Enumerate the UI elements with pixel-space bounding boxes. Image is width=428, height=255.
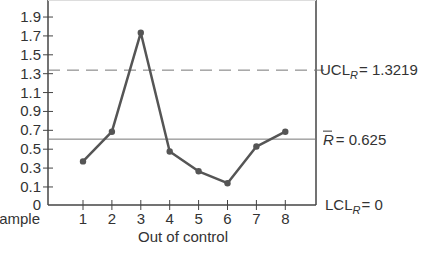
- chart-axes: [48, 0, 316, 205]
- range-series: [80, 30, 289, 187]
- x-axis-title: Sample: [0, 210, 40, 227]
- data-point: [167, 148, 173, 154]
- data-point: [224, 180, 230, 186]
- x-tick-label: 2: [108, 210, 116, 227]
- data-point: [282, 129, 288, 135]
- y-tick-label: 0.9: [20, 102, 41, 119]
- x-tick-label: 6: [223, 210, 231, 227]
- x-tick-label: 5: [194, 210, 202, 227]
- r-control-chart: 00.10.30.50.70.91.11.31.51.71.9 12345678…: [0, 0, 428, 255]
- x-axis-ticks: 12345678SampleOut of control: [0, 200, 289, 245]
- y-tick-label: 0.1: [20, 178, 41, 195]
- y-tick-label: 1.7: [20, 27, 41, 44]
- rbar-label: R= 0.625: [323, 131, 386, 148]
- range-line: [83, 33, 285, 183]
- data-point: [80, 158, 86, 164]
- data-point: [138, 30, 144, 36]
- y-tick-label: 0.3: [20, 159, 41, 176]
- y-tick-label: 0.5: [20, 140, 41, 157]
- control-limit-labels: UCLR= 1.3219R= 0.625LCLR= 0: [320, 61, 418, 216]
- y-tick-label: 1.3: [20, 65, 41, 82]
- x-tick-label: 7: [252, 210, 260, 227]
- y-tick-label: 1.9: [20, 8, 41, 25]
- data-point: [195, 168, 201, 174]
- out-of-control-label: Out of control: [138, 228, 228, 245]
- y-tick-label: 1.1: [20, 84, 41, 101]
- x-tick-label: 8: [281, 210, 289, 227]
- data-point: [109, 129, 115, 135]
- x-tick-label: 3: [137, 210, 145, 227]
- y-tick-label: 1.5: [20, 46, 41, 63]
- x-tick-label: 1: [79, 210, 87, 227]
- ucl-label: UCLR= 1.3219: [320, 61, 418, 81]
- x-tick-label: 4: [166, 210, 174, 227]
- data-point: [253, 143, 259, 149]
- control-limit-lines: [48, 70, 324, 139]
- lcl-label: LCLR= 0: [325, 196, 383, 216]
- y-tick-label: 0.7: [20, 121, 41, 138]
